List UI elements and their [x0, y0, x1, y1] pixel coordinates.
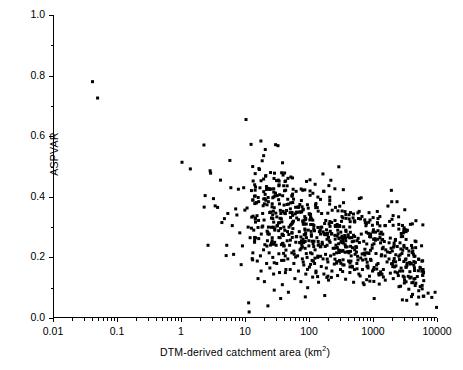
data-point — [388, 241, 391, 244]
data-point — [312, 260, 315, 263]
data-point — [394, 238, 397, 241]
data-point — [284, 271, 287, 274]
data-point — [320, 226, 323, 229]
data-point — [401, 249, 404, 252]
data-point — [407, 254, 410, 257]
data-point — [312, 245, 315, 248]
data-point — [383, 224, 386, 227]
x-minor-tick — [103, 318, 104, 321]
data-point — [348, 262, 351, 265]
data-point — [319, 229, 322, 232]
data-point — [414, 240, 417, 243]
data-point — [286, 198, 289, 201]
data-point — [422, 279, 425, 282]
data-point — [268, 267, 271, 270]
data-point — [284, 189, 287, 192]
x-minor-tick — [98, 318, 99, 321]
data-point — [332, 253, 335, 256]
data-point — [368, 275, 371, 278]
data-point — [407, 288, 410, 291]
data-point — [291, 214, 294, 217]
data-point — [278, 183, 281, 186]
data-point — [378, 215, 381, 218]
data-point — [287, 233, 290, 236]
data-point — [434, 291, 437, 294]
data-point — [297, 270, 300, 273]
data-point — [382, 268, 385, 271]
data-point — [363, 248, 366, 251]
data-point — [397, 274, 400, 277]
data-point — [357, 237, 360, 240]
data-point — [369, 235, 372, 238]
data-point — [386, 250, 389, 253]
x-minor-tick — [427, 318, 428, 321]
data-point — [207, 244, 210, 247]
data-point — [406, 229, 409, 232]
data-point — [257, 196, 260, 199]
data-point — [403, 246, 406, 249]
data-point — [286, 239, 289, 242]
data-point — [268, 251, 271, 254]
data-point — [369, 232, 372, 235]
data-point — [340, 215, 343, 218]
x-tick-mark — [117, 318, 118, 322]
data-point — [419, 285, 422, 288]
data-point — [262, 197, 265, 200]
x-minor-tick — [290, 318, 291, 321]
x-minor-tick — [231, 318, 232, 321]
data-point — [282, 226, 285, 229]
data-point — [356, 258, 359, 261]
data-point — [277, 252, 280, 255]
data-point — [228, 159, 231, 162]
data-point — [273, 289, 276, 292]
data-point — [291, 211, 294, 214]
data-point — [232, 253, 235, 256]
data-point — [299, 211, 302, 214]
data-point — [295, 190, 298, 193]
data-point — [225, 244, 228, 247]
x-minor-tick — [235, 318, 236, 321]
data-point — [414, 219, 417, 222]
data-point — [389, 272, 392, 275]
data-point — [408, 261, 411, 264]
data-point — [292, 188, 295, 191]
data-point — [241, 244, 244, 247]
data-point — [271, 217, 274, 220]
data-point — [257, 277, 260, 280]
data-point — [283, 204, 286, 207]
data-point — [355, 251, 358, 254]
y-tick-mark — [49, 197, 53, 198]
data-point — [317, 240, 320, 243]
data-point — [273, 241, 276, 244]
data-point — [282, 184, 285, 187]
data-point — [324, 253, 327, 256]
data-point — [384, 254, 387, 257]
data-point — [354, 245, 357, 248]
data-point — [282, 234, 285, 237]
data-point — [268, 211, 271, 214]
data-point — [240, 263, 243, 266]
data-point — [284, 249, 287, 252]
data-point — [417, 269, 420, 272]
data-point — [396, 200, 399, 203]
data-point — [413, 277, 416, 280]
data-point — [348, 236, 351, 239]
data-point — [287, 291, 290, 294]
data-point — [386, 205, 389, 208]
data-point — [297, 218, 300, 221]
data-point — [298, 241, 301, 244]
data-point — [225, 254, 228, 257]
data-point — [415, 303, 418, 306]
data-point — [394, 253, 397, 256]
data-point — [250, 143, 253, 146]
data-point — [326, 238, 329, 241]
data-point — [209, 172, 212, 175]
x-tick-label: 0.1 — [87, 325, 147, 337]
data-point — [271, 202, 274, 205]
data-point — [334, 238, 337, 241]
data-point — [295, 211, 298, 214]
data-point — [378, 283, 381, 286]
data-point — [367, 266, 370, 269]
data-point — [281, 283, 284, 286]
data-point — [328, 199, 331, 202]
